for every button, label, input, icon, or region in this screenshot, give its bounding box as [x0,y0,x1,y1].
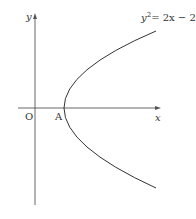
point-a-label: A [54,111,63,122]
x-axis-label: x [155,112,161,123]
y-axis-arrow-icon [33,13,37,19]
x-axis-arrow-icon [155,106,161,110]
parabola-diagram: y x O A y2= 2x − 2 [0,0,196,219]
equation-label: y2= 2x − 2 [140,11,196,23]
equation-rhs: = 2x − 2 [151,12,196,23]
parabola-curve [64,31,156,188]
y-axis-label: y [25,11,32,22]
origin-label: O [25,111,33,122]
